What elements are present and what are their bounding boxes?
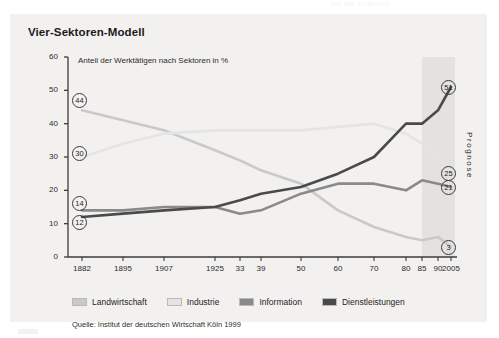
- chart-legend: LandwirtschaftIndustrieInformationDienst…: [72, 297, 425, 307]
- x-axis-tick-label: 39: [246, 264, 276, 273]
- forecast-label: Prognose: [465, 132, 474, 179]
- series-line: [82, 124, 451, 174]
- end-value-label: 21: [441, 180, 456, 195]
- legend-label: Dienstleistungen: [342, 297, 405, 307]
- faint-header-text: auf die Sektoren: [330, 0, 480, 9]
- start-value-label: 44: [72, 93, 87, 108]
- y-axis-tick-label: 30: [36, 152, 58, 161]
- legend-swatch: [72, 298, 87, 306]
- legend-swatch: [322, 298, 337, 306]
- x-axis-tick-label: 2005: [436, 264, 466, 273]
- series-line: [82, 180, 451, 213]
- y-axis-tick-label: 50: [36, 85, 58, 94]
- end-value-label: 51: [441, 80, 456, 95]
- legend-label: Industrie: [187, 297, 220, 307]
- legend-item[interactable]: Industrie: [167, 297, 220, 307]
- y-axis-tick-label: 10: [36, 219, 58, 228]
- legend-item[interactable]: Landwirtschaft: [72, 297, 147, 307]
- scan-artifact: [18, 329, 38, 334]
- start-value-label: 12: [72, 215, 87, 230]
- x-axis-tick-label: 60: [323, 264, 353, 273]
- legend-item[interactable]: Dienstleistungen: [322, 297, 405, 307]
- x-axis-tick-label: 1907: [149, 264, 179, 273]
- x-axis-tick-label: 70: [359, 264, 389, 273]
- series-lines: [82, 87, 451, 247]
- x-axis-tick-label: 1882: [67, 264, 97, 273]
- series-line: [82, 87, 451, 217]
- y-axis-tick-label: 0: [36, 252, 58, 261]
- legend-swatch: [239, 298, 254, 306]
- y-axis-tick-label: 40: [36, 119, 58, 128]
- y-axis-tick-label: 20: [36, 185, 58, 194]
- x-axis-tick-label: 50: [286, 264, 316, 273]
- x-axis-tick-label: 1895: [108, 264, 138, 273]
- legend-item[interactable]: Information: [239, 297, 302, 307]
- end-value-label: 3: [441, 240, 456, 255]
- legend-swatch: [167, 298, 182, 306]
- legend-label: Landwirtschaft: [92, 297, 147, 307]
- chart-panel: Vier-Sektoren-Modell Anteil der Werktäti…: [10, 14, 487, 322]
- y-axis-tick-label: 60: [36, 52, 58, 61]
- legend-label: Information: [259, 297, 302, 307]
- source-note: Quelle: Institut der deutschen Wirtschaf…: [72, 320, 241, 329]
- line-chart: [10, 14, 487, 322]
